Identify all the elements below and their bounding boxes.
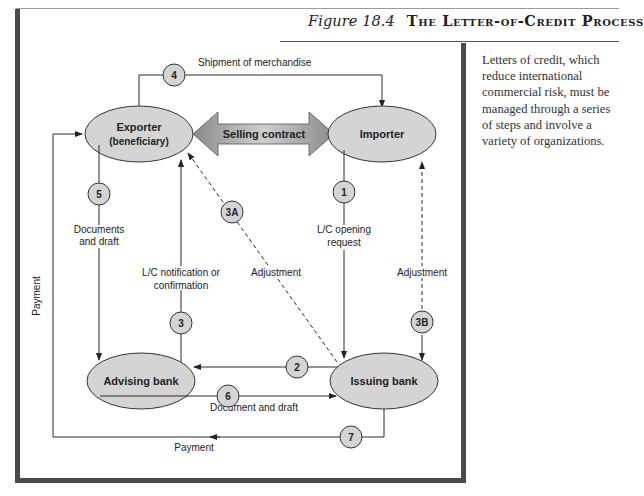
lc-notification-label-2: confirmation [154,280,208,291]
step-circle-1: 1 [333,181,355,203]
step-circle-3: 3 [170,312,192,334]
shipment-label: Shipment of merchandise [198,57,312,68]
importer-label: Importer [360,128,405,140]
node-issuing-bank: Issuing bank [330,353,438,409]
svg-text:5: 5 [96,189,102,200]
advising-bank-label: Advising bank [103,375,179,387]
selling-contract-arrow: Selling contract [193,112,334,156]
step-circle-2: 2 [286,356,308,378]
selling-contract-label: Selling contract [223,128,306,140]
svg-text:6: 6 [225,391,231,402]
edge-payment: Payment Payment [31,134,384,453]
lc-opening-label-2: request [327,237,361,248]
step-circle-6: 6 [217,385,239,407]
step-circle-7: 7 [340,426,362,448]
documents-label-2: and draft [79,236,119,247]
payment-left-label: Payment [31,276,42,316]
edge-documents-draft: Documents and draft [74,145,125,360]
edge-lc-notification: L/C notification or confirmation [142,160,220,367]
svg-text:7: 7 [348,432,354,443]
svg-text:2: 2 [294,362,300,373]
lc-notification-label-1: L/C notification or [142,267,220,278]
documents-label-1: Documents [74,224,125,235]
svg-text:4: 4 [171,70,177,81]
svg-text:3: 3 [178,318,184,329]
step-circle-4: 4 [163,64,185,86]
svg-text:3B: 3B [416,317,429,328]
svg-text:3A: 3A [226,207,239,218]
adjustment-left-label: Adjustment [251,267,301,278]
lc-opening-label-1: L/C opening [317,224,371,235]
edge-adjustment-left: Adjustment [188,153,337,362]
payment-bottom-label: Payment [174,442,214,453]
adjustment-right-label: Adjustment [397,267,447,278]
node-exporter: Exporter (beneficiary) [85,106,193,162]
exporter-label: Exporter [116,121,162,133]
step-circle-5: 5 [88,183,110,205]
issuing-bank-label: Issuing bank [350,375,418,387]
step-circle-3a: 3A [221,201,243,223]
svg-text:1: 1 [341,187,347,198]
exporter-sublabel: (beneficiary) [109,136,168,147]
node-advising-bank: Advising bank [87,353,195,409]
step-circle-3b: 3B [411,311,433,333]
